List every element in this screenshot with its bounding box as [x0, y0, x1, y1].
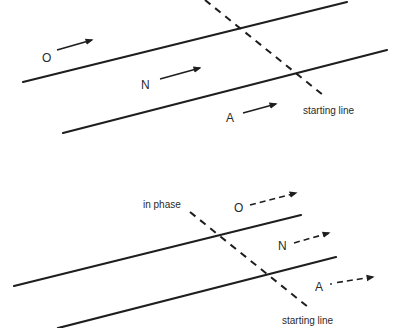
top-ray-a-label: A: [226, 112, 234, 124]
top-starting-line-label: starting line: [303, 106, 354, 116]
bottom-starting-line-dashed: [190, 212, 308, 307]
bottom-starting-line-label: starting line: [282, 316, 333, 326]
bottom-ray-n-label: N: [278, 240, 287, 252]
top-ray-n-label: N: [141, 79, 150, 91]
diagram-canvas: O N A starting line in phase O N A start…: [0, 0, 403, 328]
bottom-ray-a-label: A: [315, 281, 323, 293]
bottom-ray-o-arrow: [250, 193, 296, 205]
top-ray-o-label: O: [42, 52, 51, 64]
top-upper-boundary-line: [23, 2, 347, 82]
bottom-panel: [14, 193, 373, 328]
top-lower-boundary-line: [63, 50, 387, 133]
top-ray-o-arrow: [57, 40, 92, 50]
bottom-ray-a-arrow: [337, 277, 373, 283]
bottom-ray-o-label: O: [234, 202, 243, 214]
in-phase-label: in phase: [143, 200, 181, 210]
top-ray-a-arrow: [243, 104, 276, 113]
bottom-upper-boundary-line: [14, 215, 301, 286]
bottom-ray-a-dot: [330, 283, 332, 285]
diagram-lines: [0, 0, 403, 328]
top-ray-n-arrow: [160, 68, 200, 79]
bottom-ray-n-arrow: [294, 233, 329, 243]
